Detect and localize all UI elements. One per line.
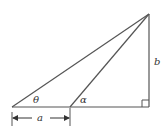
alpha-label: α xyxy=(80,94,87,105)
triangle-diagram: θ α a b xyxy=(0,0,168,129)
theta-label: θ xyxy=(33,94,39,105)
a-label: a xyxy=(37,112,43,123)
right-angle-marker xyxy=(142,100,149,107)
b-label: b xyxy=(154,56,160,67)
